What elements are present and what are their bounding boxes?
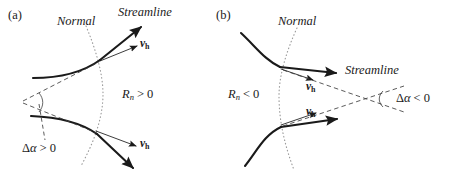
velocity-subscript: h: [311, 85, 315, 94]
radius-relation: > 0: [137, 87, 153, 101]
radius-relation: < 0: [243, 87, 259, 101]
velocity-subscript: h: [145, 42, 149, 51]
velocity-subscript: h: [311, 110, 315, 119]
panel-b-velocity-lower-label: vh: [306, 106, 316, 119]
streamline-arrow-upper-a: [100, 27, 141, 60]
panel-a-streamline-label: Streamline: [118, 6, 172, 19]
angle-arc-a: [39, 93, 43, 112]
alpha-symbol: α: [30, 141, 37, 155]
panel-b-velocity-upper-label: vh: [306, 81, 316, 94]
angle-arc-b: [379, 91, 383, 107]
velocity-subscript: h: [145, 142, 149, 151]
panel-b-normal-label: Normal: [278, 15, 316, 28]
panel-a-radius-label: Rn> 0: [122, 88, 153, 102]
streamline-arrow-lower-a: [97, 134, 133, 168]
panel-a-normal-label: Normal: [57, 15, 95, 28]
normal-curve-b: [279, 28, 297, 170]
velocity-arrow-upper-a: [100, 46, 137, 61]
panel-a-delta-alpha-label: Δα> 0: [22, 142, 56, 155]
panel-b-tag: (b): [216, 9, 231, 22]
delta-relation: > 0: [40, 141, 56, 155]
panel-b-delta-alpha-label: Δα< 0: [396, 92, 430, 105]
tangent-dashed-upper-a: [23, 62, 99, 101]
streamline-lower-b: [245, 127, 281, 166]
radius-subscript: n: [236, 92, 240, 102]
radius-symbol: R: [122, 87, 130, 101]
panel-a-tag: (a): [8, 9, 22, 22]
streamline-lower-a: [31, 116, 97, 134]
radius-subscript: n: [130, 92, 134, 102]
streamline-arrow-upper-b: [280, 67, 336, 73]
panel-b-streamline-label: Streamline: [345, 64, 399, 77]
panel-b-graphics: [241, 28, 404, 170]
radius-symbol: R: [228, 87, 236, 101]
normal-curve-a: [81, 26, 103, 166]
alpha-symbol: α: [404, 91, 411, 105]
panel-a-velocity-lower-label: vh: [140, 138, 150, 151]
panel-b-radius-label: Rn< 0: [228, 88, 259, 102]
streamline-upper-a: [33, 60, 100, 78]
tangent-dashed-lower-a: [23, 103, 97, 133]
delta-relation: < 0: [414, 91, 430, 105]
panel-a-velocity-upper-label: vh: [140, 38, 150, 51]
streamline-upper-b: [241, 33, 280, 67]
streamline-arrow-lower-b: [281, 119, 337, 127]
figure-canvas: (a) Normal Streamline vh vh Rn> 0 Δα> 0 …: [0, 0, 452, 176]
delta-symbol: Δ: [22, 141, 30, 155]
delta-symbol: Δ: [396, 91, 404, 105]
